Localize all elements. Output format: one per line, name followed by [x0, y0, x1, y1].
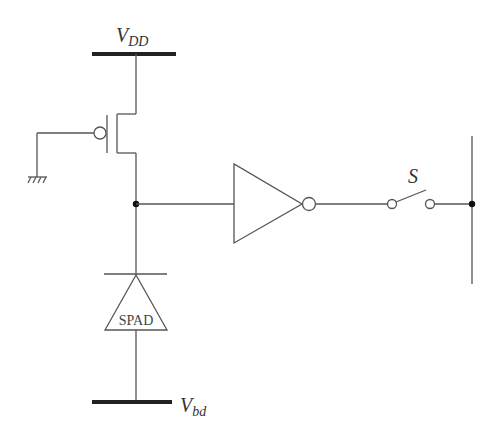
vdd-label: VDD	[116, 24, 148, 49]
switch-terminal-right	[426, 200, 435, 209]
output-node	[469, 201, 475, 207]
spad-diode-icon	[104, 274, 167, 402]
spad-label: SPAD	[119, 313, 154, 328]
inverter	[234, 164, 316, 243]
pmos-transistor	[37, 54, 136, 274]
inverter-bubble-icon	[303, 198, 316, 211]
gate-bubble-icon	[94, 127, 106, 139]
switch-blade	[396, 190, 426, 202]
switch-label: S	[408, 165, 418, 187]
switch-terminal-left	[388, 200, 397, 209]
switch	[388, 190, 435, 209]
vbd-label: Vbd	[180, 394, 207, 419]
circuit-diagram: VDD S	[0, 0, 504, 431]
ground-icon	[28, 177, 47, 183]
